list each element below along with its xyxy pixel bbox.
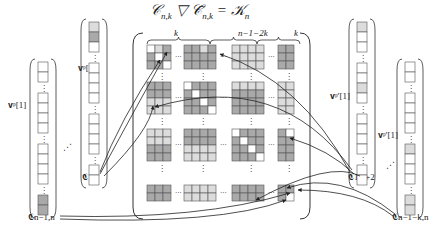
vector-v3-cell: [357, 63, 367, 73]
block-cell-r1-c2: [248, 98, 256, 106]
block-cell-r2-c0: [163, 145, 171, 153]
vector-v1-cell: [89, 22, 99, 32]
block-cell-r1-c1: [184, 90, 192, 98]
block-cell-r0-c3: [278, 61, 286, 69]
vector-v1-dots: ⋮: [91, 105, 99, 114]
block-cell-r0-c1: [200, 45, 208, 53]
block-cell-r1-c2: [240, 106, 248, 114]
ellipsis-vertical: ⋮: [285, 72, 293, 81]
vector-v3-cell: [357, 22, 367, 32]
block-cell-r1-c2: [256, 90, 264, 98]
block-cell-r1-c0: [163, 90, 171, 98]
vector-v2-cell: [38, 123, 48, 133]
vector-v2-right-paren: [51, 59, 56, 218]
vector-v1-dots: ⋮: [91, 156, 99, 165]
block-cell-r3-c1: [184, 193, 192, 201]
block-cell-r0-c2: [240, 53, 248, 61]
block-cell-r0-c0: [147, 45, 155, 53]
block-cell-r1-c1: [200, 82, 208, 90]
block-cell-r1-c2: [248, 90, 256, 98]
block-cell-r2-c3: [278, 137, 286, 145]
vector-v2-cell: [38, 62, 48, 72]
vector-v2-cell: [38, 144, 48, 154]
vector-v1-left-paren: [81, 19, 86, 188]
block-cell-r0-c0: [163, 45, 171, 53]
vector-v4-cell: [405, 123, 415, 133]
block-cell-r2-c2: [248, 145, 256, 153]
block-cell-r1-c1: [200, 106, 208, 114]
block-cell-r0-c3: [278, 45, 286, 53]
ellipsis-horizontal: ···: [175, 141, 182, 149]
vector-v3-dots: ⋮: [359, 105, 367, 114]
block-cell-r1-c1: [208, 98, 216, 106]
ellipsis-horizontal: ···: [268, 94, 275, 102]
block-cell-r0-c1: [184, 61, 192, 69]
vector-v3-cell: [357, 175, 367, 185]
block-cell-r2-c0: [147, 145, 155, 153]
block-cell-r0-c0: [163, 61, 171, 69]
block-cell-r3-c1: [184, 185, 192, 193]
block-cell-r2-c2: [248, 129, 256, 137]
arrow-c12-c: [104, 106, 153, 176]
block-cell-r0-c2: [232, 61, 240, 69]
ellipsis-vertical: ⋮: [247, 72, 255, 81]
block-cell-r2-c2: [232, 137, 240, 145]
vector-v1-cell: [89, 93, 99, 103]
block-cell-r2-c3: [286, 153, 294, 161]
block-cell-r2-c0: [155, 129, 163, 137]
vector-v4-cell: [405, 164, 415, 174]
vector-v4-dots: ⋮: [407, 186, 415, 195]
block-cell-r2-c0: [147, 153, 155, 161]
block-cell-r2-c1: [200, 137, 208, 145]
ellipsis-diagonal-right: ⋰: [386, 160, 395, 170]
block-cell-r2-c1: [184, 129, 192, 137]
ellipsis-vertical: ⋮: [199, 117, 207, 126]
block-cell-r3-c0: [163, 185, 171, 193]
block-cell-r3-c0: [147, 193, 155, 201]
block-cell-r0-c1: [192, 61, 200, 69]
block-cell-r2-c1: [208, 153, 216, 161]
block-cell-r2-c1: [208, 137, 216, 145]
ellipsis-horizontal: ···: [220, 94, 227, 102]
block-cell-r2-c3: [278, 145, 286, 153]
vector-v4-right-paren: [418, 59, 423, 218]
vector-v3-cell: [357, 134, 367, 144]
block-cell-r0-c0: [155, 45, 163, 53]
vector-v1-cell: [89, 83, 99, 93]
block-cell-r2-c3: [278, 129, 286, 137]
vector-v3-dots: ⋮: [359, 54, 367, 63]
block-cell-r1-c1: [208, 82, 216, 90]
vector-v1-cell: [89, 63, 99, 73]
block-cell-r2-c0: [163, 129, 171, 137]
block-cell-r1-c1: [192, 82, 200, 90]
block-cell-r3-c2: [240, 193, 248, 201]
block-cell-r2-c2: [232, 129, 240, 137]
vector-v2-cell: [38, 154, 48, 164]
matrix-right-paren: [300, 33, 310, 219]
vector-v2-dots: ⋮: [40, 84, 48, 93]
block-cell-r1-c1: [200, 90, 208, 98]
vector-v1-cell: [89, 175, 99, 185]
vector-v1-dots: ⋮: [91, 54, 99, 63]
block-cell-r2-c1: [200, 129, 208, 137]
block-cell-r0-c2: [248, 53, 256, 61]
vector-v4-dots: ⋮: [407, 135, 415, 144]
block-cell-r3-c0: [163, 193, 171, 201]
vector-v2-cell: [38, 103, 48, 113]
vector-v1-cell: [89, 124, 99, 134]
vector-v1-cell: [89, 73, 99, 83]
ellipsis-vertical: ⋮: [199, 72, 207, 81]
vector-v4-cell: [405, 174, 415, 184]
vector-v1-cell: [89, 42, 99, 52]
ellipsis-vertical: ⋮: [285, 117, 293, 126]
block-cell-r2-c1: [192, 137, 200, 145]
block-cell-r3-c0: [155, 185, 163, 193]
vector-v3-cell: [357, 73, 367, 83]
vector-v3-cell: [357, 165, 367, 175]
ellipsis-vertical: ⋮: [247, 117, 255, 126]
block-cell-r0-c1: [200, 61, 208, 69]
block-cell-r2-c2: [256, 153, 264, 161]
block-cell-r1-c2: [248, 106, 256, 114]
block-cell-r3-c1: [192, 193, 200, 201]
vector-v2-cell: [38, 93, 48, 103]
